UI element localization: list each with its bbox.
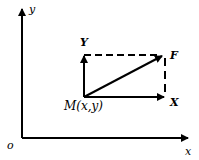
x-component-label: X — [169, 96, 179, 109]
force-decomposition-diagram: o x y M(x,y) F X Y — [0, 0, 199, 160]
resultant-label: F — [169, 49, 179, 62]
y-component-label: Y — [80, 36, 89, 49]
point-label: M(x,y) — [63, 99, 103, 113]
origin-label: o — [7, 139, 14, 152]
x-axis-label: x — [185, 145, 192, 158]
resultant-vector — [84, 56, 162, 97]
y-axis-label: y — [28, 3, 36, 16]
